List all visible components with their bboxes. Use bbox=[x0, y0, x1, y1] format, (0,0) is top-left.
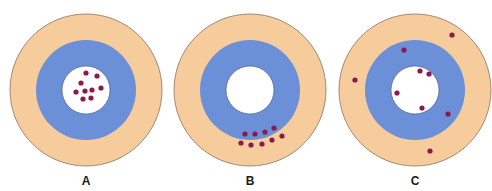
shot-dot bbox=[352, 77, 357, 82]
shot-dot bbox=[242, 131, 247, 136]
shot-dot bbox=[279, 133, 284, 138]
shot-dot bbox=[269, 137, 274, 142]
target-b bbox=[174, 14, 326, 166]
targets-svg bbox=[0, 0, 492, 191]
shot-dot bbox=[73, 89, 78, 94]
shot-dot bbox=[89, 87, 94, 92]
target-label-b: B bbox=[230, 174, 270, 188]
bullseye bbox=[226, 66, 274, 114]
shot-dot bbox=[238, 140, 243, 145]
shot-dot bbox=[82, 88, 87, 93]
shot-dot bbox=[98, 85, 103, 90]
shot-dot bbox=[417, 68, 422, 73]
target-a bbox=[10, 14, 162, 166]
target-label-a: A bbox=[66, 174, 106, 188]
shot-dot bbox=[248, 142, 253, 147]
shot-dot bbox=[94, 73, 99, 78]
shot-dot bbox=[449, 32, 454, 37]
shot-dot bbox=[401, 47, 406, 52]
shot-dot bbox=[80, 96, 85, 101]
shot-dot bbox=[88, 95, 93, 100]
shot-dot bbox=[252, 131, 257, 136]
shot-dot bbox=[426, 71, 431, 76]
bullseye bbox=[391, 66, 439, 114]
target-diagram: A B C bbox=[0, 0, 492, 191]
shot-dot bbox=[445, 111, 450, 116]
shot-dot bbox=[78, 80, 83, 85]
target-c bbox=[339, 14, 491, 166]
shot-dot bbox=[427, 148, 432, 153]
shot-dot bbox=[271, 125, 276, 130]
shot-dot bbox=[419, 105, 424, 110]
shot-dot bbox=[259, 141, 264, 146]
target-label-c: C bbox=[395, 174, 435, 188]
shot-dot bbox=[262, 129, 267, 134]
shot-dot bbox=[394, 90, 399, 95]
shot-dot bbox=[83, 70, 88, 75]
